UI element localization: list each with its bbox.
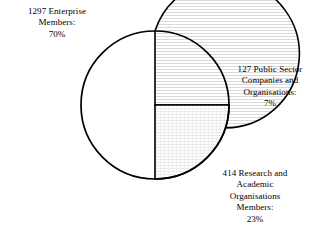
pie-label-research: 414 Research and Academic Organisations … xyxy=(196,168,314,225)
pie-label-enterprise: 1297 Enterprise Members: 70% xyxy=(4,6,110,40)
pie-chart-figure: 1297 Enterprise Members: 70% 127 Public … xyxy=(0,0,320,242)
pie-label-public-sector: 127 Public Sector Companies and Organisa… xyxy=(222,64,318,110)
